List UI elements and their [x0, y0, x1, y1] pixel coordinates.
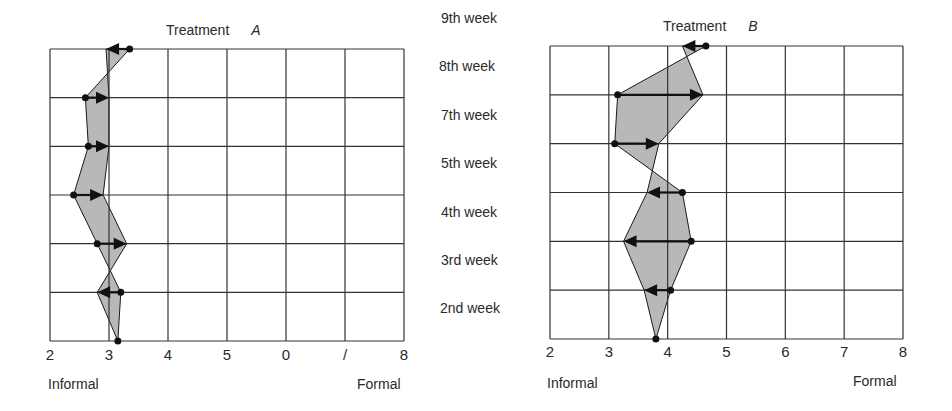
data-point: [652, 336, 659, 343]
shaded-band: [644, 290, 670, 339]
data-point: [614, 91, 621, 98]
data-point: [702, 43, 709, 50]
data-point: [667, 287, 674, 294]
x-tick-label: 6: [781, 343, 789, 360]
shaded-band: [618, 46, 706, 95]
x-tick-label: 2: [546, 343, 554, 360]
x-tick-label: 8: [899, 343, 907, 360]
data-point: [611, 140, 618, 147]
chart-b-xlabel-right: Formal: [853, 373, 897, 389]
chart-b-xlabel-left: Informal: [547, 375, 598, 391]
x-tick-label: 4: [663, 343, 671, 360]
x-tick-label: 5: [722, 343, 730, 360]
shaded-band: [615, 144, 683, 193]
figure: TreatmentA TreatmentB 9th week 8th week …: [0, 0, 952, 411]
chart-b-plot: [0, 0, 952, 411]
shaded-band: [615, 95, 703, 144]
shaded-band: [624, 193, 692, 242]
data-point: [679, 189, 686, 196]
shaded-band: [624, 241, 692, 290]
x-tick-label: 7: [840, 343, 848, 360]
data-point: [688, 238, 695, 245]
x-tick-label: 3: [605, 343, 613, 360]
